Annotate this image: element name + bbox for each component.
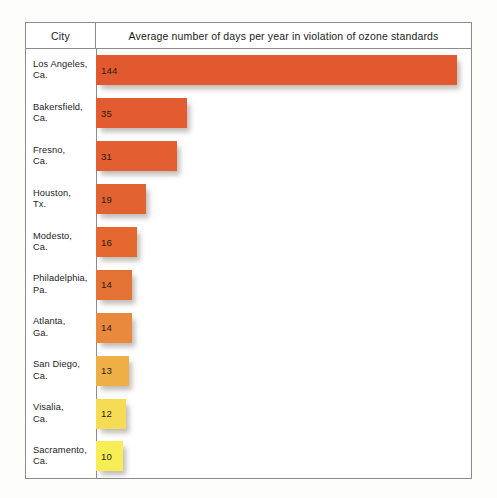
page-background: City Average number of days per year in … (0, 0, 497, 498)
city-label: Los Angeles,Ca. (26, 59, 96, 82)
bar-value-label: 16 (96, 237, 112, 248)
city-label-line1: San Diego, (33, 359, 80, 369)
city-label: Houston,Tx. (26, 188, 96, 211)
value-bar: 35 (96, 98, 187, 128)
bar-value-label: 13 (96, 365, 112, 376)
city-label-line2: Ca. (33, 414, 96, 426)
value-bar: 13 (96, 356, 129, 386)
city-label: San Diego,Ca. (26, 359, 96, 382)
city-label-line2: Ca. (33, 456, 96, 468)
city-label: Visalia,Ca. (26, 402, 96, 425)
bar-area: 10 (96, 435, 471, 478)
city-label: Atlanta,Ga. (26, 316, 96, 339)
bar-area: 14 (96, 263, 471, 306)
bar-value-label: 14 (96, 279, 112, 290)
column-header-metric: Average number of days per year in viola… (96, 23, 471, 48)
value-bar: 10 (96, 441, 123, 471)
bar-area: 35 (96, 92, 471, 135)
bar-value-label: 10 (96, 451, 112, 462)
city-label: Bakersfield,Ca. (26, 102, 96, 125)
bar-value-label: 12 (96, 408, 112, 419)
city-label-line2: Ga. (33, 328, 96, 340)
bar-area: 144 (96, 49, 471, 92)
value-bar: 16 (96, 227, 137, 257)
bar-area: 31 (96, 135, 471, 178)
table-row: Bakersfield,Ca.35 (26, 92, 471, 135)
value-bar: 144 (96, 55, 457, 85)
table-row: Houston,Tx.19 (26, 178, 471, 221)
bar-area: 19 (96, 178, 471, 221)
city-label-line2: Ca. (33, 242, 96, 254)
table-row: Atlanta,Ga.14 (26, 306, 471, 349)
city-label-line1: Modesto, (33, 231, 72, 241)
value-bar: 31 (96, 141, 177, 171)
city-label-line2: Ca. (33, 70, 96, 82)
city-label: Modesto,Ca. (26, 231, 96, 254)
value-bar: 14 (96, 313, 132, 343)
city-label-line1: Bakersfield, (33, 102, 83, 112)
bar-value-label: 35 (96, 108, 112, 119)
bar-area: 14 (96, 306, 471, 349)
table-row: Philadelphia,Pa.14 (26, 263, 471, 306)
bar-value-label: 19 (96, 194, 112, 205)
city-label-line2: Tx. (33, 199, 96, 211)
table-row: Los Angeles,Ca.144 (26, 49, 471, 92)
bar-value-label: 144 (96, 65, 118, 76)
bar-area: 13 (96, 349, 471, 392)
table-row: Sacramento,Ca.10 (26, 435, 471, 478)
table-body: Los Angeles,Ca.144Bakersfield,Ca.35Fresn… (26, 49, 471, 478)
bar-area: 16 (96, 221, 471, 264)
city-label-line1: Los Angeles, (33, 59, 87, 69)
bar-value-label: 31 (96, 151, 112, 162)
ozone-violation-table: City Average number of days per year in … (25, 22, 472, 479)
column-header-city: City (26, 23, 96, 48)
city-label-line1: Visalia, (33, 402, 64, 412)
city-label-line1: Philadelphia, (33, 273, 88, 283)
city-label-line2: Ca. (33, 371, 96, 383)
city-label-line1: Houston, (33, 188, 71, 198)
column-header-city-label: City (51, 30, 70, 42)
column-header-metric-label: Average number of days per year in viola… (129, 30, 439, 42)
value-bar: 12 (96, 399, 126, 429)
city-label-line1: Fresno, (33, 145, 65, 155)
value-bar: 19 (96, 184, 146, 214)
city-label: Sacramento,Ca. (26, 445, 96, 468)
table-row: Modesto,Ca.16 (26, 221, 471, 264)
table-row: San Diego,Ca.13 (26, 349, 471, 392)
city-label-line2: Pa. (33, 285, 96, 297)
bar-area: 12 (96, 392, 471, 435)
city-label: Philadelphia,Pa. (26, 273, 96, 296)
table-header-row: City Average number of days per year in … (26, 23, 471, 49)
table-row: Fresno,Ca.31 (26, 135, 471, 178)
bar-value-label: 14 (96, 322, 112, 333)
table-row: Visalia,Ca.12 (26, 392, 471, 435)
city-label-line2: Ca. (33, 113, 96, 125)
city-label-line1: Atlanta, (33, 316, 65, 326)
city-label-line2: Ca. (33, 156, 96, 168)
city-label: Fresno,Ca. (26, 145, 96, 168)
value-bar: 14 (96, 270, 132, 300)
city-label-line1: Sacramento, (33, 445, 87, 455)
